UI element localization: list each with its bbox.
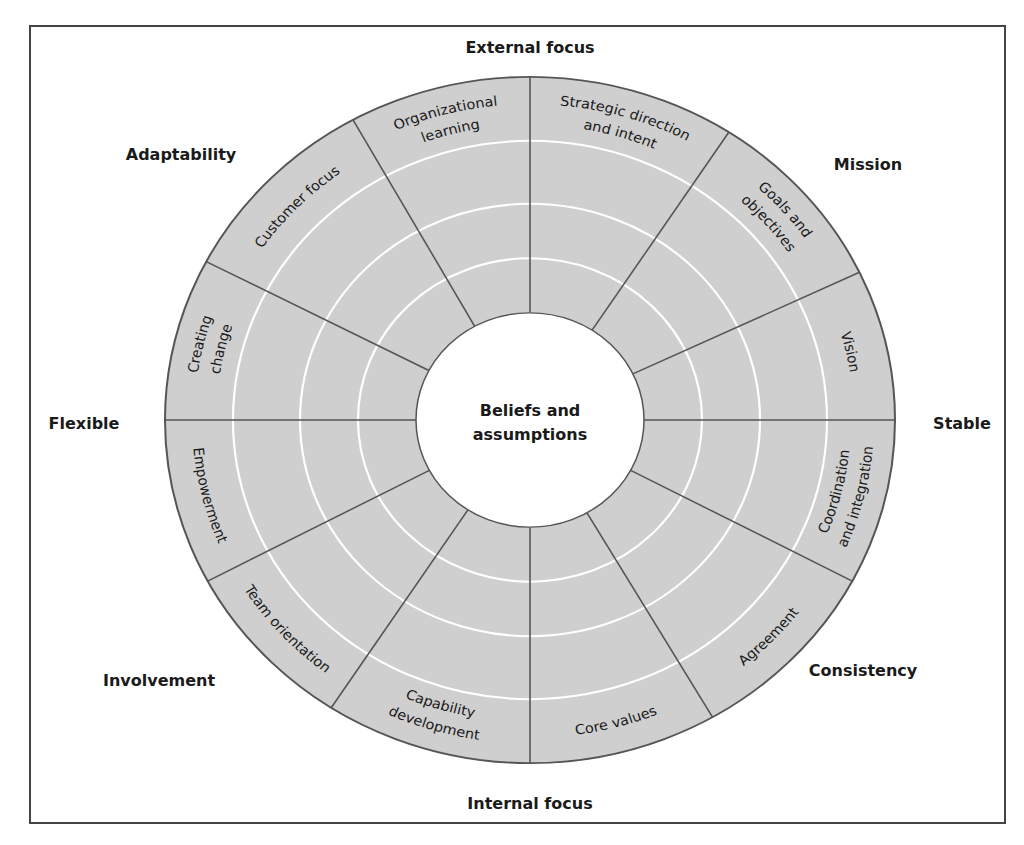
trait-label-involvement: Involvement <box>103 671 215 690</box>
center-label-line1: Beliefs and <box>473 399 587 423</box>
axis-label-left: Flexible <box>49 414 120 433</box>
axis-label-bottom: Internal focus <box>467 794 592 813</box>
center-label-line2: assumptions <box>473 423 587 447</box>
axis-label-right: Stable <box>933 414 991 433</box>
trait-label-adaptability: Adaptability <box>126 145 237 164</box>
center-label: Beliefs and assumptions <box>473 399 587 447</box>
trait-label-consistency: Consistency <box>809 661 917 680</box>
axis-label-top: External focus <box>465 38 594 57</box>
trait-label-mission: Mission <box>834 155 902 174</box>
